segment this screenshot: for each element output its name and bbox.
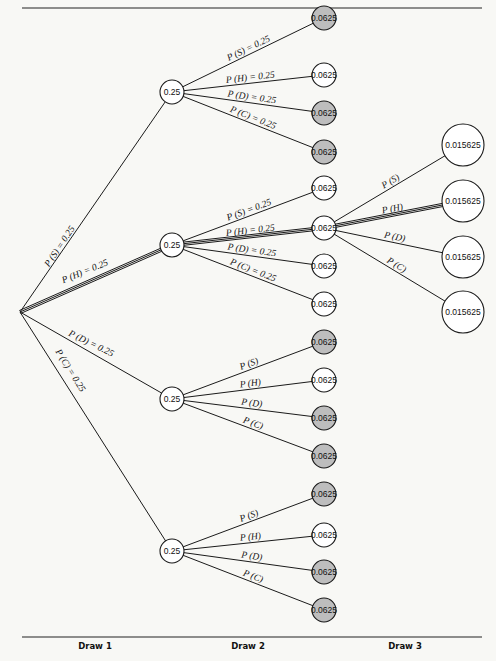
node-value: 0.015625 <box>445 252 481 262</box>
node-draw3-0: 0.015625 <box>442 124 484 166</box>
node-draw1-C: 0.25 <box>160 539 184 563</box>
node-value: 0.0625 <box>311 567 337 577</box>
axis-label-draw-3: Draw 3 <box>388 641 422 651</box>
edge-draw2 <box>172 399 324 456</box>
node-value: 0.0625 <box>311 413 337 423</box>
node-draw2-1-0: 0.0625 <box>311 176 337 200</box>
node-draw2-2-1: 0.0625 <box>311 368 337 392</box>
draw-axis: Draw 1 Draw 2 Draw 3 <box>78 641 422 651</box>
edge-label-draw2: P (C) = 0.25 <box>228 104 278 132</box>
edge-label-draw2: P (C) = 0.25 <box>228 256 278 284</box>
node-draw2-0-1: 0.0625 <box>311 63 337 87</box>
node-value: 0.0625 <box>311 223 337 233</box>
node-value: 0.0625 <box>311 375 337 385</box>
node-draw2-2-0: 0.0625 <box>311 330 337 354</box>
node-draw2-0-2: 0.0625 <box>311 101 337 125</box>
node-value: 0.0625 <box>311 70 337 80</box>
edge-root-H <box>21 246 173 313</box>
node-draw2-3-1: 0.0625 <box>311 523 337 547</box>
node-draw2-0-0: 0.0625 <box>311 6 337 30</box>
node-value: 0.0625 <box>311 530 337 540</box>
edge-label-draw3: P (C) <box>384 255 408 276</box>
node-draw2-1-2: 0.0625 <box>311 254 337 278</box>
node-draw2-3-2: 0.0625 <box>311 560 337 584</box>
edge-labels: P (S) = 0.25P (H) = 0.25P (D) = 0.25P (C… <box>42 33 408 585</box>
edge-root-D <box>20 312 172 399</box>
node-draw3-1: 0.015625 <box>442 180 484 222</box>
node-value: 0.25 <box>164 546 181 556</box>
node-draw3-3: 0.015625 <box>442 291 484 333</box>
node-value: 0.0625 <box>311 108 337 118</box>
node-value: 0.015625 <box>445 307 481 317</box>
edge-draw2 <box>172 342 324 399</box>
node-value: 0.0625 <box>311 299 337 309</box>
node-value: 0.015625 <box>445 196 481 206</box>
node-draw2-3-0: 0.0625 <box>311 482 337 506</box>
node-draw2-1-3: 0.0625 <box>311 292 337 316</box>
edge-label-draw1-D: P (D) = 0.25 <box>66 328 116 360</box>
tree-nodes: 0.06250.06250.06250.06250.06250.06250.06… <box>160 6 484 622</box>
axis-label-draw-1: Draw 1 <box>78 641 112 651</box>
node-value: 0.0625 <box>311 451 337 461</box>
edge-draw2 <box>172 494 324 551</box>
node-value: 0.0625 <box>311 183 337 193</box>
node-draw1-D: 0.25 <box>160 387 184 411</box>
node-draw1-H: 0.25 <box>160 233 184 257</box>
axis-label-draw-2: Draw 2 <box>231 641 265 651</box>
edge-label-draw1-S: P (S) = 0.25 <box>42 224 78 270</box>
node-draw2-3-3: 0.0625 <box>311 598 337 622</box>
node-draw3-2: 0.015625 <box>442 236 484 278</box>
node-value: 0.25 <box>164 240 181 250</box>
node-value: 0.0625 <box>311 337 337 347</box>
edge-root-H <box>19 244 171 311</box>
edge-label-draw2: P (S) = 0.25 <box>224 197 273 224</box>
node-draw1-S: 0.25 <box>160 80 184 104</box>
node-value: 0.25 <box>164 394 181 404</box>
node-value: 0.0625 <box>311 13 337 23</box>
node-value: 0.0625 <box>311 605 337 615</box>
node-draw2-2-2: 0.0625 <box>311 406 337 430</box>
node-value: 0.0625 <box>311 489 337 499</box>
probability-tree-diagram: P (S) = 0.25P (H) = 0.25P (D) = 0.25P (C… <box>0 0 496 661</box>
node-draw2-0-3: 0.0625 <box>311 140 337 164</box>
node-value: 0.0625 <box>311 147 337 157</box>
node-value: 0.0625 <box>311 261 337 271</box>
node-value: 0.015625 <box>445 140 481 150</box>
node-draw2-2-3: 0.0625 <box>311 444 337 468</box>
node-value: 0.25 <box>164 87 181 97</box>
edge-draw3 <box>324 145 463 228</box>
node-draw2-1-1: 0.0625 <box>311 216 337 240</box>
edge-label-draw2: P (S) = 0.25 <box>224 33 272 64</box>
